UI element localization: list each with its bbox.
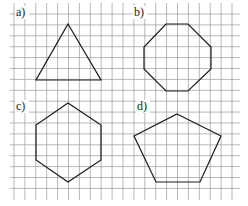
polygon-shapes xyxy=(36,24,221,182)
panel-label-c: c) xyxy=(16,99,25,113)
panel-label-a: a) xyxy=(16,5,25,19)
polygons-on-grid-figure: a)b)c)d) xyxy=(0,0,248,206)
panel-label-b: b) xyxy=(134,5,144,19)
panel-label-d: d) xyxy=(137,99,147,113)
panel-labels: a)b)c)d) xyxy=(15,5,150,113)
